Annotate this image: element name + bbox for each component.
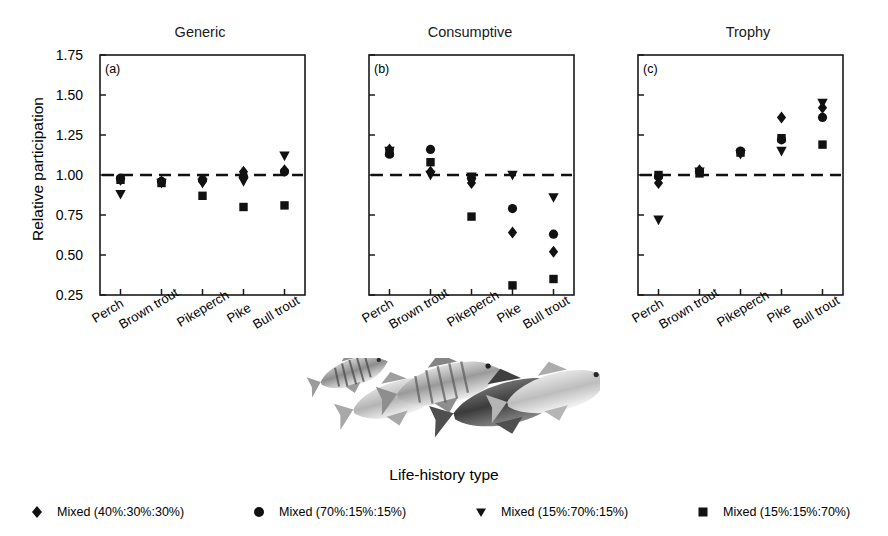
legend-label-1: Mixed (70%:15%:15%) <box>279 505 406 519</box>
legend-item-3[interactable]: Mixed (15%:15%:70%) <box>696 505 850 519</box>
data-point-square <box>818 140 826 148</box>
legend-label-0: Mixed (40%:30%:30%) <box>57 505 184 519</box>
data-point-square <box>116 176 124 184</box>
data-point-triangle-down <box>197 179 207 189</box>
panel-a <box>100 55 305 295</box>
data-point-square <box>385 148 393 156</box>
data-point-triangle-down <box>548 193 558 203</box>
data-point-circle <box>508 204 517 213</box>
data-point-circle <box>818 113 827 122</box>
diamond-marker-icon <box>30 505 44 519</box>
data-point-square <box>654 171 662 179</box>
data-point-square <box>549 275 557 283</box>
data-point-square <box>508 281 516 289</box>
data-point-triangle-down <box>653 216 663 226</box>
figure-root: Relative participation Generic Consumpti… <box>0 0 888 536</box>
legend-item-0[interactable]: Mixed (40%:30%:30%) <box>30 505 184 519</box>
legend-label-2: Mixed (15%:70%:15%) <box>501 505 628 519</box>
data-point-square <box>426 158 434 166</box>
legend-item-2[interactable]: Mixed (15%:70%:15%) <box>474 505 628 519</box>
data-point-circle <box>280 167 289 176</box>
data-point-square <box>157 179 165 187</box>
data-point-diamond <box>777 111 786 123</box>
legend: Mixed (40%:30%:30%) Mixed (70%:15%:15%) … <box>0 505 888 531</box>
panel-b <box>369 55 574 295</box>
square-marker-icon <box>696 505 710 519</box>
legend-label-3: Mixed (15%:15%:70%) <box>723 505 850 519</box>
data-point-triangle-down <box>279 152 289 162</box>
circle-marker-icon <box>252 505 266 519</box>
data-point-circle <box>549 230 558 239</box>
data-point-square <box>736 148 744 156</box>
data-point-square <box>198 192 206 200</box>
triangle-down-marker-icon <box>474 505 488 519</box>
data-point-diamond <box>508 227 517 239</box>
data-point-diamond <box>549 246 558 258</box>
data-point-square <box>280 201 288 209</box>
data-point-triangle-down <box>115 190 125 200</box>
data-point-triangle-down <box>776 147 786 157</box>
data-point-square <box>695 169 703 177</box>
data-point-triangle-down <box>238 177 248 187</box>
legend-item-1[interactable]: Mixed (70%:15%:15%) <box>252 505 406 519</box>
data-point-square <box>777 134 785 142</box>
panel-c <box>638 55 843 295</box>
fish-illustration <box>300 358 600 463</box>
data-point-circle <box>426 145 435 154</box>
data-point-square <box>467 212 475 220</box>
data-point-square <box>239 203 247 211</box>
fish-illustration-svg <box>300 358 600 463</box>
x-axis-title: Life-history type <box>0 466 888 484</box>
